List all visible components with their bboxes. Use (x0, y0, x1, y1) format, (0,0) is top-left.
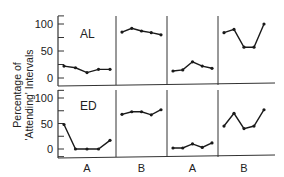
data-point (108, 139, 111, 142)
data-point (242, 127, 245, 130)
data-point (62, 123, 65, 126)
data-point (85, 71, 88, 74)
data-point (159, 33, 162, 36)
data-line-ed-phase-4 (224, 110, 264, 129)
data-point (232, 28, 235, 31)
y-tick-label: 100 (35, 18, 53, 30)
data-point (120, 30, 123, 33)
data-point (201, 65, 204, 68)
data-point (97, 147, 100, 150)
data-point (130, 110, 133, 113)
data-point (74, 66, 77, 69)
data-point (191, 142, 194, 145)
data-point (242, 46, 245, 49)
data-point (171, 146, 174, 149)
data-point (120, 113, 123, 116)
data-point (222, 124, 225, 127)
data-point (108, 68, 111, 71)
y-tick-label: 0 (47, 72, 53, 84)
data-point (150, 31, 153, 34)
data-point (62, 65, 65, 68)
data-point (191, 60, 194, 63)
y-tick-label: 50 (41, 118, 53, 130)
x-phase-label: A (189, 162, 197, 174)
subject-label: AL (80, 27, 95, 41)
y-tick-label: 100 (35, 92, 53, 104)
data-point (181, 146, 184, 149)
subject-label: ED (80, 99, 97, 113)
y-tick-label: 50 (41, 45, 53, 57)
data-point (171, 69, 174, 72)
data-point (150, 113, 153, 116)
data-point (181, 68, 184, 71)
data-point (97, 68, 100, 71)
data-point (140, 29, 143, 32)
data-point (201, 146, 204, 149)
data-line-ed-phase-1 (64, 125, 110, 149)
data-point (210, 67, 213, 70)
data-point (85, 147, 88, 150)
data-point (222, 31, 225, 34)
data-point (262, 108, 265, 111)
x-phase-label: B (138, 162, 145, 174)
data-point (232, 112, 235, 115)
data-point (159, 108, 162, 111)
data-line-al-phase-4 (224, 24, 264, 47)
data-point (252, 46, 255, 49)
data-point (210, 141, 213, 144)
data-point (130, 27, 133, 30)
data-point (252, 124, 255, 127)
data-point (262, 22, 265, 25)
ab-reversal-line-chart: 050100AL050100EDABAB (0, 0, 284, 177)
y-tick-label: 0 (47, 143, 53, 155)
x-phase-label: A (83, 162, 91, 174)
data-point (140, 110, 143, 113)
data-point (74, 147, 77, 150)
x-phase-label: B (240, 162, 247, 174)
